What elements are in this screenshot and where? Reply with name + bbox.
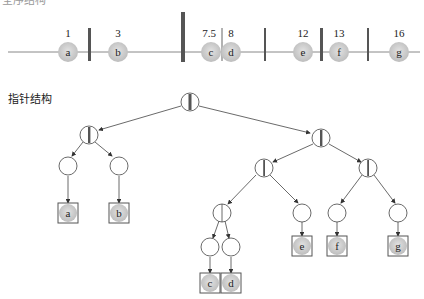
- svg-text:3: 3: [115, 27, 121, 39]
- leaf-pointer-a: [59, 157, 77, 175]
- leaf-pointer-d: [222, 238, 240, 256]
- leaf-pointer-f: [328, 204, 346, 222]
- separator: [181, 12, 185, 62]
- svg-text:b: b: [115, 46, 121, 58]
- svg-text:d: d: [228, 277, 234, 289]
- leaf-pointer-g: [389, 204, 407, 222]
- ball-b: b3: [108, 27, 128, 62]
- svg-text:g: g: [396, 46, 402, 58]
- ball-e: e12: [293, 27, 313, 62]
- svg-text:a: a: [66, 46, 71, 58]
- node-left: [80, 126, 98, 144]
- leaf-c: c: [200, 273, 220, 293]
- svg-text:c: c: [208, 277, 213, 289]
- leaf-b: b: [109, 203, 129, 223]
- ball-c: c7.5: [201, 27, 221, 62]
- leaf-pointer-e: [293, 204, 311, 222]
- leaf-pointer-b: [110, 157, 128, 175]
- leaf-e: e: [292, 236, 312, 256]
- ball-g: g16: [389, 27, 409, 62]
- node-cd: [213, 204, 231, 222]
- svg-text:b: b: [116, 207, 122, 219]
- leaf-g: g: [388, 236, 408, 256]
- svg-text:e: e: [300, 240, 305, 252]
- svg-text:12: 12: [298, 27, 309, 39]
- separator: [264, 28, 266, 61]
- svg-text:16: 16: [394, 27, 406, 39]
- ball-f: f13: [329, 27, 349, 62]
- leaf-a: a: [58, 203, 78, 223]
- node-right: [312, 129, 330, 147]
- separator: [320, 28, 323, 61]
- svg-text:f: f: [337, 46, 341, 58]
- ball-d: d8: [221, 27, 241, 62]
- svg-text:d: d: [228, 46, 234, 58]
- svg-text:e: e: [301, 46, 306, 58]
- root-node: [181, 93, 199, 111]
- svg-text:c: c: [209, 46, 214, 58]
- diagram-canvas: a1 b3 c7.5 d8 e12 f13 g16: [0, 0, 424, 299]
- svg-text:1: 1: [65, 27, 71, 39]
- svg-text:g: g: [395, 240, 401, 252]
- node-right-right: [359, 159, 377, 177]
- svg-text:8: 8: [228, 27, 234, 39]
- svg-text:7.5: 7.5: [202, 27, 216, 39]
- line-balls: a1 b3 c7.5 d8 e12 f13 g16: [58, 27, 409, 62]
- svg-text:a: a: [66, 207, 71, 219]
- leaf-d: d: [221, 273, 241, 293]
- leaf-f: f: [327, 236, 347, 256]
- separator: [88, 28, 91, 61]
- separator: [367, 28, 369, 61]
- ball-a: a1: [58, 27, 78, 62]
- svg-text:f: f: [335, 240, 339, 252]
- svg-text:13: 13: [334, 27, 346, 39]
- tree-internal-nodes: [59, 93, 407, 256]
- leaf-pointer-c: [201, 238, 219, 256]
- node-right-left: [255, 159, 273, 177]
